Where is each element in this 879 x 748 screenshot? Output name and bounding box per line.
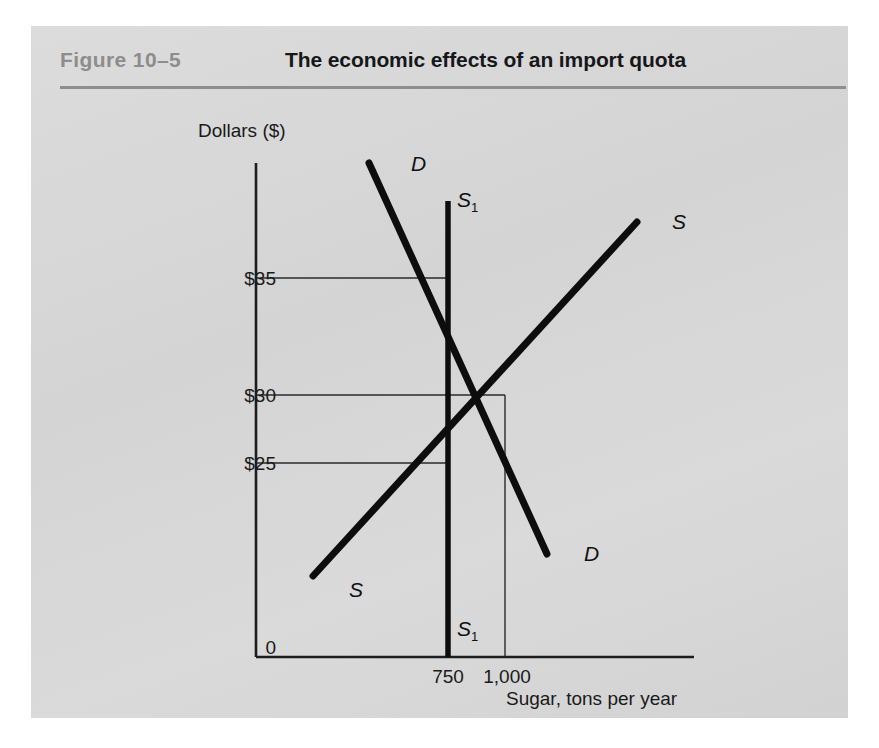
header-divider [60,86,846,89]
supply-curve-label-top: S [672,210,686,234]
quota-supply-label-bottom-letter: S [457,617,471,640]
figure-number: Figure 10–5 [60,48,181,72]
figure-panel: Figure 10–5 The economic effects of an i… [31,26,848,718]
x-tick-label-750: 750 [418,666,478,688]
quota-supply-label-bottom: S1 [457,617,478,644]
supply-curve [313,222,637,576]
x-axis-title: Sugar, tons per year [506,688,677,710]
demand-curve [369,163,547,554]
chart-svg [31,96,848,718]
y-tick-label-30: $30 [189,385,276,407]
chart-axes [256,163,694,657]
quota-supply-label-bottom-sub: 1 [471,629,478,644]
quota-supply-label-top: S1 [457,188,478,215]
y-tick-label-35: $35 [189,268,276,290]
origin-label: 0 [236,637,276,659]
quota-supply-label-top-sub: 1 [471,200,478,215]
x-tick-label-1000: 1,000 [471,666,543,688]
supply-curve-label-bottom: S [349,578,363,602]
figure-header: Figure 10–5 The economic effects of an i… [31,26,848,96]
chart-plot-area: Dollars ($) Sugar, tons per year $35 $30… [31,96,848,718]
y-axis-title: Dollars ($) [198,120,286,142]
guide-lines [256,278,505,657]
demand-curve-label-bottom: D [584,542,599,566]
page-root: Figure 10–5 The economic effects of an i… [0,0,879,748]
y-tick-label-25: $25 [189,453,276,475]
figure-title: The economic effects of an import quota [285,48,686,72]
demand-curve-label-top: D [411,152,426,176]
quota-supply-label-top-letter: S [457,188,471,211]
